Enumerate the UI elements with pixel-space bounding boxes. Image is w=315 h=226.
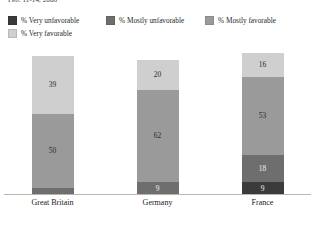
legend-label-mostly-favorable: % Mostly favorable <box>218 16 276 25</box>
bar-segment-mostly-unfavorable[interactable]: 18 <box>242 155 284 182</box>
bar-segment-value: 53 <box>259 112 267 120</box>
bar-segment-very-favorable[interactable]: 16 <box>242 53 284 77</box>
bar-column: 20629 <box>105 47 210 195</box>
legend-item-very-unfavorable[interactable]: % Very unfavorable <box>8 16 106 25</box>
bar-segment-value: 62 <box>154 132 162 140</box>
stacked-bar-chart: Feb. 11-14, 2008 % Very unfavorable % Mo… <box>0 0 315 226</box>
bar-group: 3950206291653189 <box>0 47 315 195</box>
legend-item-mostly-unfavorable[interactable]: % Mostly unfavorable <box>106 16 205 25</box>
legend-label-very-favorable: % Very favorable <box>21 29 72 38</box>
legend-row: % Very favorable <box>8 27 308 40</box>
bar-segment-value: 9 <box>156 185 160 193</box>
bar-segment-mostly-favorable[interactable]: 62 <box>137 90 179 182</box>
legend-swatch-very-favorable <box>8 29 17 38</box>
bar-segment-very-favorable[interactable]: 20 <box>137 60 179 90</box>
legend-row: % Very unfavorable % Mostly unfavorable … <box>8 14 308 27</box>
legend-label-mostly-unfavorable: % Mostly unfavorable <box>119 16 184 25</box>
legend-swatch-mostly-unfavorable <box>106 16 115 25</box>
legend-item-mostly-favorable[interactable]: % Mostly favorable <box>205 16 276 25</box>
bar-column: 1653189 <box>210 47 315 195</box>
bar-segment-value: 50 <box>49 147 57 155</box>
bar-segment-value: 20 <box>154 71 162 79</box>
bar-segment-value: 16 <box>259 61 267 69</box>
bar-segment-value: 39 <box>49 81 57 89</box>
plot-area: 3950206291653189 Great BritainGermanyFra… <box>0 46 315 211</box>
legend-label-very-unfavorable: % Very unfavorable <box>21 16 79 25</box>
bar-segment-very-unfavorable[interactable]: 9 <box>242 182 284 195</box>
bar-segment-very-favorable[interactable]: 39 <box>32 56 74 114</box>
bar-segment-mostly-favorable[interactable]: 53 <box>242 77 284 155</box>
legend-item-very-favorable[interactable]: % Very favorable <box>8 29 106 38</box>
bar-stack[interactable]: 20629 <box>137 60 179 195</box>
bar-stack[interactable]: 3950 <box>32 56 74 195</box>
bar-column: 3950 <box>0 47 105 195</box>
legend-swatch-mostly-favorable <box>205 16 214 25</box>
x-axis-line <box>4 194 311 195</box>
chart-legend: % Very unfavorable % Mostly unfavorable … <box>8 14 308 40</box>
bar-segment-mostly-unfavorable[interactable]: 9 <box>137 182 179 195</box>
bar-segment-mostly-favorable[interactable]: 50 <box>32 114 74 188</box>
survey-date-label: Feb. 11-14, 2008 <box>8 0 57 4</box>
bar-stack[interactable]: 1653189 <box>242 53 284 195</box>
x-axis-label: France <box>210 196 315 211</box>
x-axis-label: Germany <box>105 196 210 211</box>
legend-swatch-very-unfavorable <box>8 16 17 25</box>
x-axis-labels: Great BritainGermanyFrance <box>0 196 315 211</box>
bar-segment-value: 9 <box>261 185 265 193</box>
bar-segment-value: 18 <box>259 165 267 173</box>
x-axis-label: Great Britain <box>0 196 105 211</box>
